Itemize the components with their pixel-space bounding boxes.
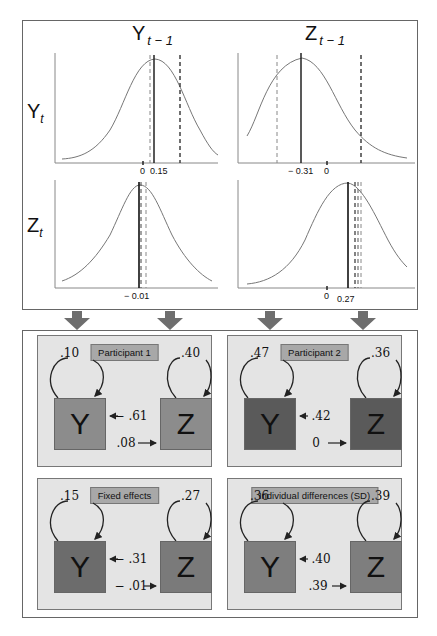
down-arrow-icon xyxy=(64,311,90,330)
down-arrow-icon xyxy=(257,311,283,330)
y-autoregression-coef: .47 xyxy=(250,346,269,360)
node-z: Z xyxy=(160,398,212,450)
z-to-y-coef: − .61 xyxy=(101,409,161,423)
plot-yt-yt1: 0 0.15 xyxy=(55,53,218,176)
down-arrows xyxy=(64,311,376,330)
node-z: Z xyxy=(350,398,402,450)
y-to-z-coef: − .01 xyxy=(101,579,161,593)
mean-tick-label: − 0.01 xyxy=(124,291,149,301)
panel-fixed-effects: Fixed effects .15 .27 Y Z − .31 − .01 xyxy=(37,478,212,610)
panel-participant-2: Participant 2 .47 .36 Y Z .42 0 xyxy=(227,335,402,467)
z-autoregression-coef: .39 xyxy=(371,489,390,503)
node-label: Y xyxy=(70,550,90,584)
mean-tick-label: − 0.31 xyxy=(288,166,313,176)
zero-tick-label: 0 xyxy=(140,166,145,176)
zero-tick-label: 0 xyxy=(324,291,329,301)
y-to-z-coef: .39 xyxy=(288,579,348,593)
z-autoregression-coef: .27 xyxy=(181,489,200,503)
node-z: Z xyxy=(350,541,402,593)
mean-tick-label: 0.27 xyxy=(337,294,355,304)
y-to-z-coef: .08 xyxy=(96,436,156,450)
y-autoregression-coef: .36 xyxy=(250,489,269,503)
y-autoregression-coef: .15 xyxy=(60,489,79,503)
plot-zt-zt1: 0 0.27 xyxy=(238,180,415,304)
node-label: Y xyxy=(70,407,90,441)
node-label: Y xyxy=(260,550,280,584)
panel-participant-1: Participant 1 .10 .40 Y Z − .61 .08 xyxy=(37,335,212,467)
node-y: Y xyxy=(54,541,106,593)
plot-yt-zt1: − 0.31 0 xyxy=(238,53,415,176)
z-to-y-coef: .40 xyxy=(291,552,351,566)
node-label: Z xyxy=(177,407,195,441)
node-label: Z xyxy=(367,550,385,584)
z-autoregression-coef: .40 xyxy=(181,346,200,360)
z-to-y-coef: .42 xyxy=(291,409,351,423)
node-label: Z xyxy=(177,550,195,584)
plot-zt-yt1: − 0.01 xyxy=(55,180,218,301)
mean-tick-label: 0.15 xyxy=(150,166,168,176)
node-label: Z xyxy=(367,407,385,441)
node-label: Y xyxy=(260,407,280,441)
y-to-z-coef: 0 xyxy=(286,436,346,450)
z-to-y-coef: − .31 xyxy=(101,552,161,566)
panel-individual-differences: Individual differences (SD) .36 .39 Y Z … xyxy=(227,478,402,610)
distribution-plots: 0 0.15 − 0.31 0 − 0.01 0 0.27 xyxy=(0,0,437,330)
down-arrow-icon xyxy=(157,311,183,330)
zero-tick-label: 0 xyxy=(324,166,329,176)
node-z: Z xyxy=(160,541,212,593)
y-autoregression-coef: .10 xyxy=(60,346,79,360)
z-autoregression-coef: .36 xyxy=(371,346,390,360)
down-arrow-icon xyxy=(350,311,376,330)
